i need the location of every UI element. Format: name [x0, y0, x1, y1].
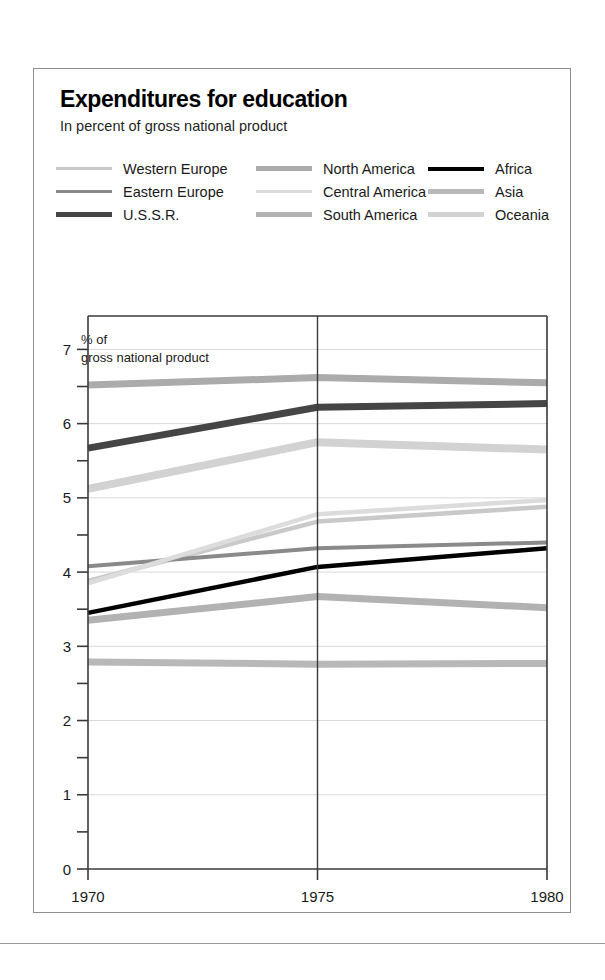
- figure-frame: Expenditures for education In percent of…: [33, 68, 571, 913]
- page-divider-rule: [0, 943, 605, 944]
- y-tick-label: 7: [63, 341, 71, 358]
- y-tick-label: 4: [63, 564, 71, 581]
- line-chart-plot: 01234567197019751980: [34, 69, 572, 914]
- y-tick-label: 1: [63, 786, 71, 803]
- y-tick-label: 5: [63, 489, 71, 506]
- y-tick-label: 0: [63, 861, 71, 878]
- y-tick-label: 2: [63, 712, 71, 729]
- x-tick-label: 1970: [71, 888, 104, 905]
- x-tick-label: 1975: [301, 888, 334, 905]
- x-tick-label: 1980: [530, 888, 563, 905]
- y-tick-label: 6: [63, 415, 71, 432]
- y-tick-label: 3: [63, 638, 71, 655]
